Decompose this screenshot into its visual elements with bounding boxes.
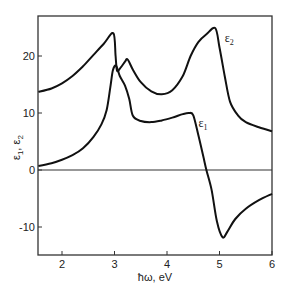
chart: 23456 -1001020 ε2ε1 ħω, eV ε1, ε2 — [0, 0, 287, 290]
x-tick-label: 6 — [269, 258, 275, 270]
series-annotation-eps2: ε2 — [225, 31, 234, 47]
x-tick-label: 5 — [216, 258, 222, 270]
y-tick-label: 0 — [29, 164, 35, 176]
x-tick-label: 2 — [59, 258, 65, 270]
y-axis-label: ε1, ε2 — [10, 135, 25, 160]
x-tick-label: 3 — [111, 258, 117, 270]
series-annotation-eps1: ε1 — [199, 116, 208, 132]
series-line-eps2 — [38, 28, 272, 132]
y-tick-label: -10 — [19, 221, 35, 233]
plot-frame — [38, 16, 272, 255]
x-tick-label: 4 — [164, 258, 170, 270]
series-line-eps1 — [38, 65, 272, 237]
y-tick-label: 10 — [23, 107, 35, 119]
x-axis-label: ħω, eV — [138, 271, 173, 283]
y-tick-label: 20 — [23, 50, 35, 62]
